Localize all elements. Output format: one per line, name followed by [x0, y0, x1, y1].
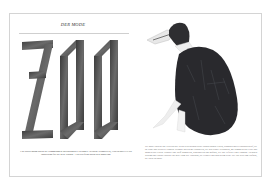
headline-caption: Ein Spaziergang durch die Sammlungen int…	[20, 150, 132, 157]
letter-z	[22, 40, 53, 139]
left-page: DER MODE	[10, 14, 136, 176]
section-kicker: DER MODE	[10, 22, 136, 27]
letter-o-1	[60, 40, 84, 139]
header-rule	[19, 33, 129, 34]
white-leg-shape	[153, 100, 181, 128]
magazine-spread: DER MODE	[9, 13, 262, 177]
penguin-figure-illustration	[145, 20, 245, 140]
zoo-headline-graphic	[20, 38, 132, 142]
article-body-text: Die Mode entdeckt das Tierreich neu. In …	[145, 145, 257, 160]
letter-o-2	[94, 40, 118, 139]
white-leg-shape-2	[177, 110, 185, 132]
right-page: Die Mode entdeckt das Tierreich neu. In …	[137, 14, 263, 176]
